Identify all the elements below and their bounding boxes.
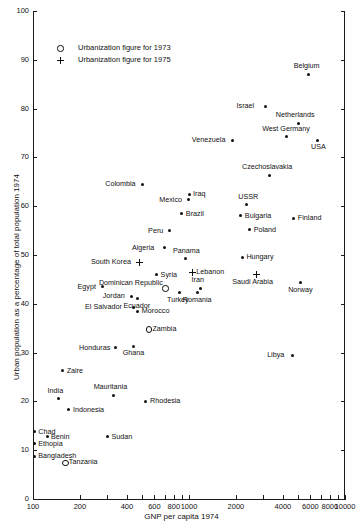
- x-tick: [283, 495, 284, 500]
- dot-icon: [241, 256, 244, 259]
- y-tick-right: [341, 157, 345, 158]
- plot-area: [33, 11, 345, 500]
- x-tick-label: 1000: [174, 503, 204, 511]
- point-label: Iraq: [193, 190, 205, 198]
- x-tick-label: 200: [65, 503, 95, 511]
- point-label: Morocco: [142, 307, 170, 315]
- dot-icon: [33, 430, 36, 433]
- x-tick: [107, 495, 108, 500]
- x-tick-label: 10000: [330, 503, 360, 511]
- point-label: West Germany: [262, 125, 310, 133]
- circle-open-icon: [57, 45, 63, 51]
- x-tick: [182, 495, 183, 500]
- point-label: Poland: [254, 226, 276, 234]
- y-tick-label: 20: [7, 397, 29, 405]
- point-label: South Korea: [91, 258, 131, 266]
- dot-icon: [231, 139, 234, 142]
- dot-icon: [106, 435, 109, 438]
- circle-open-icon: [162, 285, 168, 291]
- x-tick-label: 4000: [268, 503, 298, 511]
- y-tick-right: [341, 206, 345, 207]
- point-label: Colombia: [105, 180, 135, 188]
- dot-icon: [291, 354, 294, 357]
- point-label: Turkey: [167, 296, 189, 304]
- point-label: Brazil: [186, 210, 204, 218]
- legend-label: Urbanization figure for 1973: [78, 42, 171, 54]
- point-label: Honduras: [79, 344, 110, 352]
- y-tick-label: 90: [7, 56, 29, 64]
- point-label: Norway: [288, 286, 312, 294]
- point-label: Bulgaria: [245, 212, 271, 220]
- dot-icon: [307, 73, 310, 76]
- x-tick: [127, 495, 128, 500]
- scatter-chart: 0102030405060708090100100200400600800100…: [0, 0, 363, 531]
- legend-label: Urbanization figure for 1975: [78, 54, 171, 66]
- x-tick: [310, 495, 311, 500]
- y-tick-right: [341, 450, 345, 451]
- point-label: Tanzania: [69, 458, 98, 466]
- x-tick: [165, 495, 166, 500]
- x-tick: [189, 495, 190, 500]
- circle-open-icon: [146, 326, 152, 332]
- y-tick-right: [341, 60, 345, 61]
- dot-icon: [141, 183, 144, 186]
- point-label: Dominican Republic: [96, 279, 163, 287]
- y-tick: [33, 157, 37, 158]
- point-label: Indonesia: [73, 406, 104, 414]
- point-label: Ghana: [123, 349, 145, 357]
- x-tick: [298, 495, 299, 500]
- y-tick-label: 80: [7, 105, 29, 113]
- plus-icon: [136, 259, 143, 266]
- x-tick: [338, 495, 339, 500]
- y-tick-right: [341, 304, 345, 305]
- x-tick: [345, 495, 346, 500]
- dot-icon: [188, 193, 191, 196]
- x-tick: [154, 495, 155, 500]
- x-tick-label: 100: [18, 503, 48, 511]
- y-tick: [33, 450, 37, 451]
- point-label: Zambia: [152, 325, 176, 333]
- y-tick: [33, 255, 37, 256]
- point-label: USA: [311, 143, 326, 151]
- point-label: El Salvador: [85, 303, 122, 311]
- y-tick-label: 0: [7, 495, 29, 503]
- dot-icon: [132, 306, 135, 309]
- y-tick: [33, 60, 37, 61]
- point-label: Israel: [237, 102, 255, 110]
- point-label: Egypt: [78, 283, 96, 291]
- y-tick: [33, 109, 37, 110]
- dot-icon: [264, 105, 267, 108]
- x-axis-title: GNP per capita 1974: [0, 512, 363, 521]
- x-tick: [330, 495, 331, 500]
- point-label: Jordan: [103, 292, 125, 300]
- point-label: Syria: [161, 271, 177, 279]
- dot-icon: [46, 435, 49, 438]
- y-tick-right: [341, 401, 345, 402]
- point-label: Mauritania: [94, 383, 128, 391]
- x-tick: [174, 495, 175, 500]
- point-label: Belgium: [294, 62, 320, 70]
- x-tick: [33, 495, 34, 500]
- point-label: Sudan: [111, 433, 132, 441]
- plus-icon: [57, 57, 64, 64]
- y-tick-right: [341, 109, 345, 110]
- y-tick: [33, 304, 37, 305]
- point-label: Finland: [298, 214, 322, 222]
- circle-open-icon: [62, 460, 68, 466]
- x-tick-label: 2000: [221, 503, 251, 511]
- point-label: Hungary: [246, 253, 273, 261]
- point-label: Netherlands: [276, 111, 315, 119]
- point-label: Venezuela: [192, 136, 226, 144]
- y-tick: [33, 206, 37, 207]
- point-label: Iran: [192, 276, 204, 284]
- dot-icon: [196, 291, 199, 294]
- point-label: Saudi Arabia: [232, 278, 273, 286]
- point-label: Panama: [173, 247, 200, 255]
- point-label: India: [48, 387, 64, 395]
- x-tick: [321, 495, 322, 500]
- point-label: Peru: [148, 227, 163, 235]
- y-tick: [33, 11, 37, 12]
- x-tick: [80, 495, 81, 500]
- x-tick: [236, 495, 237, 500]
- point-label: Mexico: [159, 196, 182, 204]
